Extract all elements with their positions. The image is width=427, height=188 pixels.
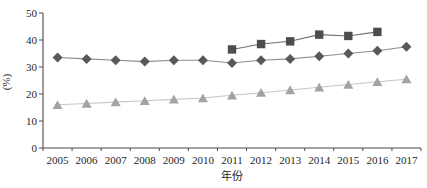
diamond-series-point bbox=[227, 58, 237, 68]
x-tick-label: 2011 bbox=[221, 154, 243, 166]
diamond-series-point bbox=[401, 42, 411, 52]
square-series-point bbox=[257, 40, 265, 48]
diamond-series-point bbox=[169, 55, 179, 65]
diamond-series-point bbox=[82, 54, 92, 64]
y-tick-label: 20 bbox=[26, 88, 38, 100]
y-tick-label: 30 bbox=[26, 61, 38, 73]
line-chart: 0102030405020052006200720082009201020112… bbox=[0, 0, 427, 188]
x-tick-label: 2007 bbox=[105, 154, 128, 166]
x-axis-label: 年份 bbox=[221, 169, 243, 182]
x-tick-label: 2006 bbox=[76, 154, 99, 166]
x-tick-label: 2016 bbox=[366, 154, 389, 166]
diamond-series-point bbox=[111, 55, 121, 65]
y-tick-label: 50 bbox=[26, 7, 38, 19]
triangle-series-point bbox=[401, 75, 411, 84]
square-series-point bbox=[344, 32, 352, 40]
x-tick-label: 2010 bbox=[192, 154, 215, 166]
y-axis-label: (%) bbox=[0, 73, 13, 90]
diamond-series-point bbox=[285, 54, 295, 64]
x-tick-label: 2012 bbox=[250, 154, 272, 166]
diamond-series-point bbox=[140, 57, 150, 67]
diamond-series-point bbox=[53, 53, 63, 63]
x-tick-label: 2013 bbox=[279, 154, 302, 166]
square-series-point bbox=[286, 37, 294, 45]
y-tick-label: 10 bbox=[26, 115, 38, 127]
y-tick-label: 40 bbox=[26, 34, 38, 46]
diamond-series-point bbox=[343, 49, 353, 59]
x-tick-label: 2008 bbox=[134, 154, 157, 166]
square-series-line bbox=[232, 32, 377, 50]
x-tick-label: 2015 bbox=[337, 154, 360, 166]
square-series-point bbox=[373, 28, 381, 36]
square-series-point bbox=[228, 45, 236, 53]
diamond-series-point bbox=[198, 55, 208, 65]
diamond-series-point bbox=[372, 46, 382, 56]
x-tick-label: 2017 bbox=[395, 154, 418, 166]
x-tick-label: 2005 bbox=[47, 154, 70, 166]
diamond-series-point bbox=[256, 55, 266, 65]
x-tick-label: 2009 bbox=[163, 154, 186, 166]
y-tick-label: 0 bbox=[32, 142, 38, 154]
plot-area: 0102030405020052006200720082009201020112… bbox=[26, 7, 421, 166]
diamond-series-point bbox=[314, 51, 324, 61]
x-tick-label: 2014 bbox=[308, 154, 331, 166]
square-series-point bbox=[315, 30, 323, 38]
chart-container: 0102030405020052006200720082009201020112… bbox=[0, 0, 427, 188]
